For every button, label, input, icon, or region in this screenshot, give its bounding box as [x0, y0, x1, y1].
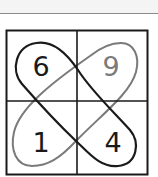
- cell-digit-bottom-right: 4: [104, 127, 121, 158]
- cell-digit-top-left: 6: [32, 51, 49, 82]
- cell-digit-top-right: 9: [102, 51, 119, 82]
- puzzle-diagram: 6 9 1 4: [0, 0, 158, 177]
- cell-digit-bottom-left: 1: [32, 127, 49, 158]
